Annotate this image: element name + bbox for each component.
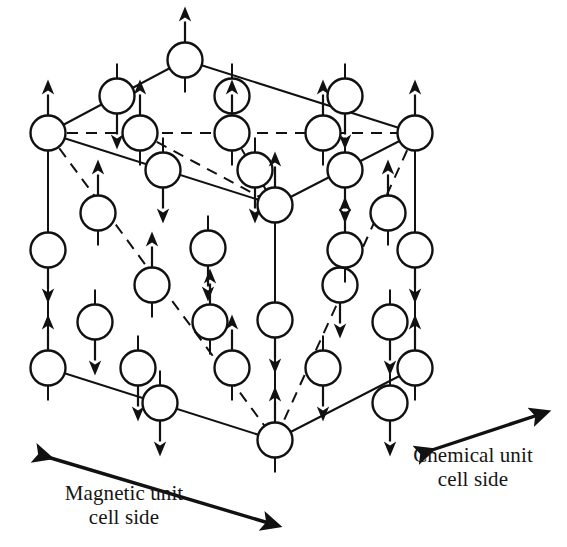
atom-circle: [135, 268, 170, 303]
spin-down-arrow-icon: [111, 135, 123, 150]
spin-down-arrow-icon: [334, 324, 346, 339]
atom-circle: [81, 196, 116, 231]
magnetic-unit-cell-label: Magnetic unit cell side: [26, 481, 222, 529]
atom-circle: [31, 233, 66, 268]
atom-circle: [323, 268, 358, 303]
atom-circle: [328, 153, 363, 188]
atom-circle: [328, 233, 363, 268]
atom-circle: [168, 43, 203, 78]
atom-circle: [215, 351, 250, 386]
atom-circle: [121, 351, 156, 386]
chemical-unit-cell-label: Chemical unit cell side: [382, 443, 564, 491]
spin-down-arrow-icon: [202, 287, 214, 302]
atom-circle: [373, 305, 408, 340]
spin-down-arrow-icon: [89, 361, 101, 376]
atom-circle: [78, 305, 113, 340]
atom-circle: [100, 79, 135, 114]
atom-circle: [258, 303, 293, 338]
spin-up-arrow-icon: [179, 7, 191, 22]
spin-down-arrow-icon: [154, 442, 166, 457]
atom-circle: [191, 231, 226, 266]
spin-up-arrow-icon: [409, 80, 421, 95]
atom-circle: [143, 386, 178, 421]
atom-circle: [238, 153, 273, 188]
spin-up-arrow-icon: [42, 80, 54, 95]
atom-circle: [258, 423, 293, 458]
figure-root: Magnetic unit cell side Chemical unit ce…: [0, 0, 567, 547]
atom-circle: [398, 351, 433, 386]
atom-circle: [31, 351, 66, 386]
atom-circle: [258, 188, 293, 223]
spin-up-arrow-icon: [204, 269, 216, 284]
atom-circle: [373, 386, 408, 421]
atom-circle: [31, 116, 66, 151]
atom-circle: [306, 116, 341, 151]
spin-up-arrow-icon: [92, 160, 104, 175]
spin-down-arrow-icon: [132, 407, 144, 422]
atom-circle: [398, 116, 433, 151]
atom-circle: [371, 196, 406, 231]
spin-up-arrow-icon: [339, 197, 351, 212]
atom-circle: [306, 351, 341, 386]
atom-circle: [146, 153, 181, 188]
atom-circle: [215, 116, 250, 151]
spin-down-arrow-icon: [157, 209, 169, 224]
spin-up-arrow-icon: [382, 160, 394, 175]
spin-up-arrow-icon: [317, 80, 329, 95]
atom-circle: [193, 305, 228, 340]
spin-up-arrow-icon: [269, 152, 281, 167]
atom-circle: [328, 79, 363, 114]
spin-up-arrow-icon: [146, 232, 158, 247]
atom-group: [31, 7, 433, 473]
atom-circle: [123, 116, 158, 151]
atom-circle: [398, 233, 433, 268]
